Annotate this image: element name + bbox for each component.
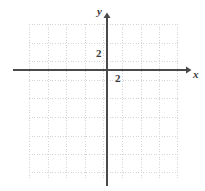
x-axis-tick-label-2: 2 [115, 73, 121, 84]
label-layer: y x 2 2 [0, 0, 205, 191]
y-axis-label: y [97, 6, 102, 17]
x-axis-label: x [193, 69, 199, 80]
y-axis-tick-label-2: 2 [96, 48, 102, 59]
coordinate-plane-figure: y x 2 2 [0, 0, 205, 191]
